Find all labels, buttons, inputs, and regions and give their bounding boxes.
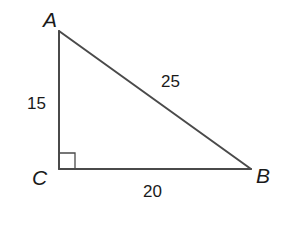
side-label-ac: 15 [27, 94, 46, 113]
side-label-cb: 20 [143, 182, 162, 201]
side-label-ab: 25 [161, 72, 180, 91]
vertex-label-a: A [41, 8, 57, 31]
side-ab-hypotenuse [59, 31, 251, 169]
vertex-label-c: C [32, 166, 48, 189]
triangle-diagram: A C B 15 25 20 [0, 0, 282, 225]
vertex-label-b: B [256, 164, 270, 187]
right-angle-marker-icon [59, 153, 75, 169]
